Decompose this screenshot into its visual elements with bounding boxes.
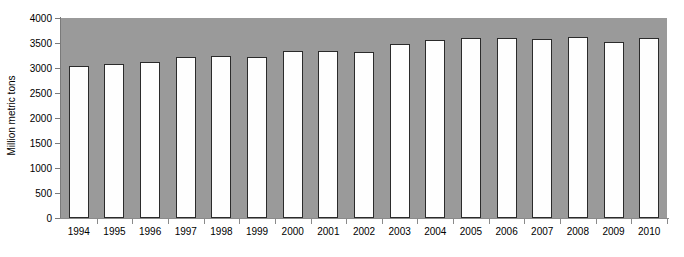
y-axis-tick-mark bbox=[55, 143, 60, 144]
bar-chart: Million metric tons 05001000150020002500… bbox=[0, 0, 684, 257]
x-axis-tick-label: 1994 bbox=[68, 226, 90, 237]
bar-slot bbox=[239, 18, 275, 218]
x-axis-tick-label: 2008 bbox=[567, 226, 589, 237]
y-axis-tick-label: 2500 bbox=[30, 88, 52, 99]
bar[interactable] bbox=[568, 37, 588, 218]
bar[interactable] bbox=[497, 38, 517, 218]
bar[interactable] bbox=[247, 57, 267, 218]
x-axis-tick-mark bbox=[631, 219, 632, 224]
bar-slot bbox=[61, 18, 97, 218]
bar-slot bbox=[311, 18, 347, 218]
y-axis-tick-mark bbox=[55, 218, 60, 219]
x-axis-tick-label: 2010 bbox=[638, 226, 660, 237]
x-axis-tick-label: 2001 bbox=[317, 226, 339, 237]
bar[interactable] bbox=[211, 56, 231, 218]
x-axis-tick-mark bbox=[453, 219, 454, 224]
x-axis-tick-mark bbox=[489, 219, 490, 224]
x-axis-tick-label: 1998 bbox=[210, 226, 232, 237]
bar[interactable] bbox=[140, 62, 160, 218]
x-axis-tick-mark bbox=[204, 219, 205, 224]
bar-slot bbox=[382, 18, 418, 218]
bar-slot bbox=[275, 18, 311, 218]
y-axis-tick-mark bbox=[55, 43, 60, 44]
y-axis-tick-label: 500 bbox=[35, 188, 52, 199]
y-axis-tick-labels: 05001000150020002500300035004000 bbox=[22, 18, 56, 218]
x-axis-tick-mark bbox=[168, 219, 169, 224]
x-axis-tick-label: 2005 bbox=[460, 226, 482, 237]
x-axis-line bbox=[60, 218, 669, 219]
x-axis-tick-label: 1997 bbox=[175, 226, 197, 237]
y-axis-tick-mark bbox=[55, 93, 60, 94]
y-axis-tick-label: 1000 bbox=[30, 163, 52, 174]
x-axis-tick-label: 1999 bbox=[246, 226, 268, 237]
bar[interactable] bbox=[318, 51, 338, 218]
x-axis-tick-label: 2002 bbox=[353, 226, 375, 237]
x-axis-tick-mark bbox=[346, 219, 347, 224]
bar-slot bbox=[453, 18, 489, 218]
x-axis-tick-mark bbox=[524, 219, 525, 224]
bar-slot bbox=[631, 18, 667, 218]
bar-slot bbox=[489, 18, 525, 218]
y-axis-tick-label: 0 bbox=[46, 213, 52, 224]
x-axis-tick-mark bbox=[239, 219, 240, 224]
bar[interactable] bbox=[283, 51, 303, 218]
bar-slot bbox=[168, 18, 204, 218]
y-axis-tick-label: 4000 bbox=[30, 13, 52, 24]
bar[interactable] bbox=[425, 40, 445, 218]
x-axis-tick-label: 2007 bbox=[531, 226, 553, 237]
x-axis-tick-label: 2004 bbox=[424, 226, 446, 237]
x-axis-tick-label: 2006 bbox=[495, 226, 517, 237]
bar[interactable] bbox=[639, 38, 659, 218]
y-axis-title-label: Million metric tons bbox=[6, 75, 17, 155]
y-axis-tick-mark bbox=[55, 168, 60, 169]
x-axis-tick-mark bbox=[560, 219, 561, 224]
bar[interactable] bbox=[176, 57, 196, 219]
y-axis-tick-mark bbox=[55, 18, 60, 19]
bar[interactable] bbox=[461, 38, 481, 218]
x-axis-tick-mark bbox=[382, 219, 383, 224]
y-axis-tick-mark bbox=[55, 68, 60, 69]
x-axis-tick-label: 2003 bbox=[389, 226, 411, 237]
y-axis-tick-label: 1500 bbox=[30, 138, 52, 149]
bar-slot bbox=[560, 18, 596, 218]
bar-slot bbox=[596, 18, 632, 218]
bar-slot bbox=[417, 18, 453, 218]
plot-area bbox=[61, 18, 667, 218]
y-axis-tick-label: 3000 bbox=[30, 63, 52, 74]
bar-slot bbox=[346, 18, 382, 218]
bar-slot bbox=[524, 18, 560, 218]
bar[interactable] bbox=[532, 39, 552, 218]
bar-slot bbox=[132, 18, 168, 218]
bar[interactable] bbox=[390, 44, 410, 218]
x-axis-tick-label: 1996 bbox=[139, 226, 161, 237]
bar[interactable] bbox=[104, 64, 124, 218]
bar[interactable] bbox=[354, 52, 374, 218]
y-axis-tick-label: 3500 bbox=[30, 38, 52, 49]
x-axis-tick-label: 1995 bbox=[103, 226, 125, 237]
x-axis-tick-mark bbox=[275, 219, 276, 224]
x-axis-tick-mark bbox=[132, 219, 133, 224]
y-axis-tick-label: 2000 bbox=[30, 113, 52, 124]
bar-slot bbox=[97, 18, 133, 218]
x-axis-tick-label: 2000 bbox=[282, 226, 304, 237]
x-axis-tick-mark bbox=[667, 219, 668, 224]
x-axis-tick-mark bbox=[596, 219, 597, 224]
bar[interactable] bbox=[604, 42, 624, 218]
x-axis-tick-mark bbox=[97, 219, 98, 224]
y-axis-tick-mark bbox=[55, 118, 60, 119]
x-axis-tick-mark bbox=[417, 219, 418, 224]
x-axis-tick-label: 2009 bbox=[602, 226, 624, 237]
bar-slot bbox=[204, 18, 240, 218]
y-axis-title: Million metric tons bbox=[0, 0, 22, 230]
x-axis-tick-mark bbox=[311, 219, 312, 224]
y-axis-tick-mark bbox=[55, 193, 60, 194]
bar[interactable] bbox=[69, 66, 89, 218]
